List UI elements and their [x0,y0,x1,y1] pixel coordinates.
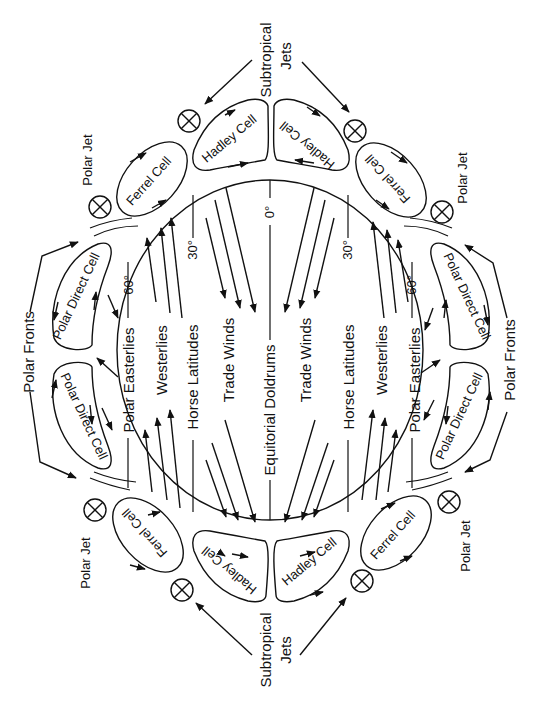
polar-fronts-label-left: Polar Fronts [20,311,37,393]
lat-30-left: 30° [185,240,200,260]
band-horse-latitudes-left: Horse Latitudes [184,324,201,429]
subtropical-label-top: Subtropical [257,22,274,97]
polar-direct-cell-right-lower: Polar Direct Cell [431,362,490,468]
subtropical-jet-symbol-tl [178,110,200,132]
band-westerlies-right: Westerlies [373,325,390,395]
subtropical-label-bottom: Subtropical [257,612,274,687]
polar-jet-symbol-bl [84,499,106,521]
polar-jet-symbol-br [438,491,460,513]
band-polar-easterlies-left: Polar Easterlies [120,327,137,432]
ferrel-cell-top-right: Ferrel Cell [342,130,440,230]
band-horse-latitudes-right: Horse Latitudes [340,324,357,429]
subtropical-jet-symbol-tr [344,120,366,142]
subtropical-jet-symbol-bl [171,579,193,601]
subtropical-jet-symbol-br [351,570,373,592]
svg-text:Polar Direct Cell: Polar Direct Cell [57,370,110,462]
hadley-cell-top-right: Hadley Cell [274,99,350,172]
arrow-subtropical-br [300,598,346,655]
polar-fronts-label-right: Polar Fronts [501,319,518,401]
lat-0: 0° [262,206,277,218]
polar-jet-label-tl: Polar Jet [80,134,95,186]
polar-direct-cell-left-lower: Polar Direct Cell [52,362,111,468]
polar-jet-symbol-tl [89,196,111,218]
jets-label-top: Jets [277,42,294,70]
svg-text:Ferrel Cell: Ferrel Cell [367,508,418,563]
arrow-subtropical-tl [205,60,252,104]
svg-text:Ferrel Cell: Ferrel Cell [119,506,170,561]
polar-jet-label-tr: Polar Jet [455,152,470,204]
svg-text:Polar Direct Cell: Polar Direct Cell [49,250,102,342]
arrow-subtropical-tr [302,62,349,112]
polar-direct-cell-right-upper: Polar Direct Cell [431,243,494,349]
band-polar-easterlies-right: Polar Easterlies [406,327,423,432]
ferrel-cell-top-left: Ferrel Cell [103,129,201,229]
polar-jet-label-bl: Polar Jet [78,537,93,589]
circulation-diagram: 60° 30° 0° 30° 60° Polar Easterlies West… [0,0,542,701]
svg-text:Polar Direct Cell: Polar Direct Cell [432,370,485,462]
polar-jet-label-br: Polar Jet [458,520,473,572]
arrow-subtropical-bl [196,603,252,655]
svg-text:Hadley Cell: Hadley Cell [199,111,260,165]
polar-direct-cell-left-upper: Polar Direct Cell [49,243,111,349]
arrow-polar-front-right-down [465,412,507,472]
hadley-cell-bottom-right: Hadley Cell [274,531,349,602]
ferrel-cell-bottom-left: Ferrel Cell [99,485,197,585]
band-doldrums: Equitorial Doldrums [261,345,278,476]
hadley-cell-top-left: Hadley Cell [193,99,269,170]
band-trade-winds-left: Trade Winds [220,318,237,402]
band-trade-winds-right: Trade Winds [297,318,314,402]
hadley-cell-bottom-left: Hadley Cell [193,531,268,602]
lat-60-left: 60° [121,275,136,295]
jets-label-bottom: Jets [277,636,294,664]
polar-jet-symbol-tr [431,201,453,223]
band-westerlies-left: Westerlies [153,325,170,395]
svg-text:Hadley Cell: Hadley Cell [199,543,260,597]
svg-text:Hadley Cell: Hadley Cell [277,118,338,172]
lat-30-right: 30° [340,240,355,260]
svg-text:Ferrel Cell: Ferrel Cell [362,152,413,207]
